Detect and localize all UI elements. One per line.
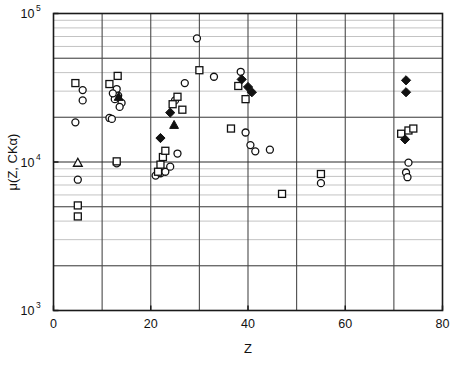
x-tick-label: 60 — [338, 317, 352, 331]
data-point-open-circle — [247, 142, 254, 149]
data-point-open-circle — [193, 35, 200, 42]
data-point-open-circle — [242, 129, 249, 136]
series-open-circle — [72, 35, 412, 187]
y-tick-label: 105 — [21, 3, 41, 21]
data-point-open-circle — [266, 146, 273, 153]
data-point-markers — [72, 35, 417, 220]
data-point-open-square — [279, 190, 286, 197]
data-point-open-square — [114, 72, 121, 79]
data-point-open-circle — [79, 97, 86, 104]
y-axis-tick-labels: 103104105 — [21, 3, 41, 318]
data-point-open-circle — [108, 115, 115, 122]
data-point-open-circle — [109, 90, 116, 97]
data-point-open-square — [242, 96, 249, 103]
svg-text:10: 10 — [21, 156, 35, 170]
svg-text:4: 4 — [36, 152, 41, 162]
data-point-open-square — [157, 161, 164, 168]
svg-text:3: 3 — [36, 300, 41, 310]
data-point-open-circle — [174, 150, 181, 157]
data-point-open-circle — [405, 159, 412, 166]
series-filled-diamond — [156, 75, 411, 144]
data-point-open-square — [317, 171, 324, 178]
data-point-filled-triangle — [170, 120, 179, 128]
data-point-filled-diamond — [156, 133, 165, 142]
x-tick-label: 80 — [436, 317, 450, 331]
data-point-open-circle — [72, 119, 79, 126]
data-point-open-square — [410, 125, 417, 132]
y-axis-title: μ(Z, CKα) — [5, 134, 20, 191]
data-point-open-square — [106, 81, 113, 88]
data-point-open-square — [155, 168, 162, 175]
x-axis-tick-labels: 020406080 — [50, 317, 449, 331]
x-tick-label: 40 — [241, 317, 255, 331]
data-point-open-square — [74, 213, 81, 220]
data-point-open-square — [72, 80, 79, 87]
data-point-open-square — [169, 101, 176, 108]
x-axis-title: Z — [244, 341, 252, 356]
series-open-square — [72, 67, 417, 220]
data-point-open-circle — [210, 73, 217, 80]
svg-text:10: 10 — [21, 304, 35, 318]
scatter-plot-figure: 020406080 103104105 Z μ(Z, CKα) — [0, 0, 458, 371]
data-point-open-circle — [181, 80, 188, 87]
plot-canvas: 020406080 103104105 Z μ(Z, CKα) — [0, 0, 458, 371]
data-point-open-circle — [404, 174, 411, 181]
data-point-open-circle — [167, 163, 174, 170]
data-point-open-square — [179, 106, 186, 113]
data-point-open-square — [174, 93, 181, 100]
data-point-open-square — [196, 67, 203, 74]
data-point-filled-diamond — [401, 88, 410, 97]
svg-text:5: 5 — [36, 3, 41, 13]
svg-text:10: 10 — [21, 7, 35, 21]
x-tick-label: 0 — [50, 317, 57, 331]
data-point-open-square — [227, 125, 234, 132]
data-point-open-circle — [317, 180, 324, 187]
data-point-open-circle — [252, 148, 259, 155]
data-point-open-square — [162, 147, 169, 154]
y-tick-label: 103 — [21, 300, 41, 318]
data-point-open-circle — [237, 68, 244, 75]
data-point-open-circle — [79, 87, 86, 94]
data-point-open-circle — [74, 176, 81, 183]
data-point-filled-diamond — [166, 108, 175, 117]
data-point-filled-diamond — [401, 76, 410, 85]
data-point-open-square — [74, 202, 81, 209]
data-point-open-square — [113, 158, 120, 165]
y-tick-label: 104 — [21, 152, 41, 170]
data-point-open-circle — [116, 103, 123, 110]
x-tick-label: 20 — [144, 317, 158, 331]
